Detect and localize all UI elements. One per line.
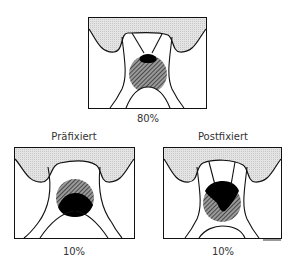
panel-right-diagram <box>163 147 282 239</box>
panel-top-diagram <box>88 17 207 109</box>
percent-label-prefixed: 10% <box>14 246 134 257</box>
percent-label-postfixed: 10% <box>163 246 283 257</box>
title-prefixed: Präfixiert <box>14 131 134 142</box>
title-postfixed: Postfixiert <box>163 131 283 142</box>
panel-left-diagram <box>14 147 135 239</box>
percent-label-top: 80% <box>88 113 208 124</box>
scale-mark <box>263 239 281 241</box>
tooth-diagram-80 <box>88 17 207 109</box>
tooth-diagram-postfixed <box>163 147 282 239</box>
tooth-diagram-prefixed <box>14 147 135 239</box>
